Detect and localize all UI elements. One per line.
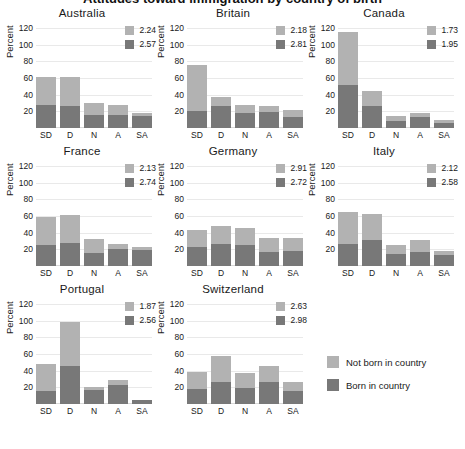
bar-sd[interactable] xyxy=(36,300,56,404)
y-tick-label: 40 xyxy=(326,229,335,237)
bar-segment-born xyxy=(84,115,104,128)
bar-sd[interactable] xyxy=(338,162,358,266)
mean-value: 1.87 xyxy=(139,302,156,311)
bar-n[interactable] xyxy=(235,24,255,128)
panel-mean-born: 2.58 xyxy=(427,178,458,187)
panel-title: Britain xyxy=(157,7,309,19)
mean-value: 2.18 xyxy=(290,26,307,35)
bar-segment-not-born xyxy=(211,226,231,244)
bar-segment-not-born xyxy=(283,382,303,390)
bar-d[interactable] xyxy=(60,24,80,128)
panel-france: FrancePercent20406080100120SDDNASA2.132.… xyxy=(6,144,158,282)
bar-segment-born xyxy=(211,106,231,128)
bar-segment-born xyxy=(410,117,430,128)
x-axis-labels: SDDNASA xyxy=(338,130,454,140)
legend-swatch-born xyxy=(327,379,339,391)
mean-value: 2.63 xyxy=(290,302,307,311)
x-tick-label: A xyxy=(410,268,430,278)
mean-value: 2.81 xyxy=(290,40,307,49)
bar-d[interactable] xyxy=(60,162,80,266)
bar-d[interactable] xyxy=(211,162,231,266)
mean-value: 2.12 xyxy=(441,164,458,173)
legend-item-born: Born in country xyxy=(327,379,426,391)
x-tick-label: SD xyxy=(187,130,207,140)
bar-segment-born xyxy=(235,388,255,404)
legend-swatch-not-born xyxy=(327,356,339,368)
mean-value: 2.13 xyxy=(139,164,156,173)
mean-value: 1.95 xyxy=(441,40,458,49)
bar-segment-not-born xyxy=(211,356,231,382)
bar-sd[interactable] xyxy=(187,300,207,404)
mean-swatch-born xyxy=(276,316,285,325)
bar-d[interactable] xyxy=(362,162,382,266)
bar-n[interactable] xyxy=(84,162,104,266)
mean-value: 2.24 xyxy=(139,26,156,35)
y-tick-label: 40 xyxy=(175,91,184,99)
bar-n[interactable] xyxy=(84,24,104,128)
panel-mean-legend: 2.182.81 xyxy=(276,26,307,54)
mean-swatch-born xyxy=(276,40,285,49)
panel-mean-legend: 2.242.57 xyxy=(125,26,156,54)
mean-value: 2.74 xyxy=(139,178,156,187)
bar-sd[interactable] xyxy=(187,24,207,128)
y-axis-label: Percent xyxy=(306,25,317,58)
panel-mean-legend: 1.872.56 xyxy=(125,302,156,330)
bar-sd[interactable] xyxy=(36,162,56,266)
y-tick-label: 100 xyxy=(321,41,335,49)
panel-mean-born: 2.56 xyxy=(125,316,156,325)
bar-sd[interactable] xyxy=(187,162,207,266)
bar-segment-not-born xyxy=(259,238,279,252)
bar-segment-born xyxy=(84,390,104,404)
x-tick-label: SA xyxy=(132,406,152,416)
bar-sd[interactable] xyxy=(338,24,358,128)
y-axis-label: Percent xyxy=(4,301,15,334)
panel-mean-not-born: 1.73 xyxy=(427,26,458,35)
bar-segment-born xyxy=(434,255,454,266)
bar-n[interactable] xyxy=(235,162,255,266)
bar-d[interactable] xyxy=(211,24,231,128)
panel-title: Portugal xyxy=(6,283,158,295)
bar-segment-born xyxy=(132,400,152,404)
x-tick-label: SA xyxy=(132,130,152,140)
panel-canada: CanadaPercent20406080100120SDDNASA1.731.… xyxy=(308,6,460,144)
bar-segment-born xyxy=(338,244,358,266)
x-tick-label: A xyxy=(410,130,430,140)
x-tick-label: SD xyxy=(36,130,56,140)
bar-d[interactable] xyxy=(362,24,382,128)
bar-n[interactable] xyxy=(235,300,255,404)
bar-segment-born xyxy=(362,106,382,128)
bar-d[interactable] xyxy=(211,300,231,404)
bar-segment-born xyxy=(259,382,279,404)
bar-n[interactable] xyxy=(386,24,406,128)
panel-mean-born: 2.74 xyxy=(125,178,156,187)
mean-swatch-not-born xyxy=(125,164,134,173)
bar-segment-not-born xyxy=(60,77,80,106)
bar-segment-born xyxy=(235,113,255,128)
x-tick-label: A xyxy=(108,268,128,278)
y-tick-label: 60 xyxy=(175,74,184,82)
main-legend: Not born in country Born in country xyxy=(327,356,426,402)
y-tick-label: 100 xyxy=(19,179,33,187)
bar-n[interactable] xyxy=(84,300,104,404)
panel-mean-born: 2.98 xyxy=(276,316,307,325)
bar-sd[interactable] xyxy=(36,24,56,128)
y-axis-label: Percent xyxy=(155,301,166,334)
panel-mean-not-born: 2.24 xyxy=(125,26,156,35)
x-tick-label: N xyxy=(386,130,406,140)
panel-mean-not-born: 2.63 xyxy=(276,302,307,311)
y-tick-label: 100 xyxy=(170,179,184,187)
mean-swatch-not-born xyxy=(276,302,285,311)
bar-segment-not-born xyxy=(338,32,358,84)
y-axis-label: Percent xyxy=(155,163,166,196)
y-tick-label: 120 xyxy=(321,24,335,32)
bar-segment-not-born xyxy=(187,230,207,247)
panel-title: Germany xyxy=(157,145,309,157)
bar-n[interactable] xyxy=(386,162,406,266)
bar-segment-born xyxy=(259,112,279,128)
y-tick-label: 120 xyxy=(19,300,33,308)
mean-swatch-born xyxy=(125,178,134,187)
y-tick-label: 80 xyxy=(326,195,335,203)
mean-value: 2.58 xyxy=(441,178,458,187)
bar-segment-born xyxy=(108,385,128,404)
bar-d[interactable] xyxy=(60,300,80,404)
